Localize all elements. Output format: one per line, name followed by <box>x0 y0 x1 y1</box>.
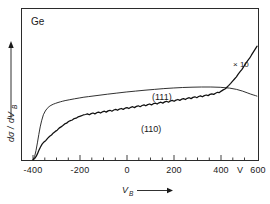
x-tick-label-1: -200 <box>71 165 90 175</box>
x-axis-unit-marker: V <box>237 165 243 175</box>
y-axis-label-denominator-subscript: B <box>11 104 18 109</box>
x-axis-label-subscript: B <box>129 190 134 197</box>
curve-label-111: (111) <box>152 92 172 102</box>
x-tick-label-2: 0 <box>124 165 129 175</box>
y-axis-label-numerator: dσ <box>6 131 16 142</box>
x-axis-label: V B <box>122 185 173 197</box>
material-label: Ge <box>31 16 45 27</box>
x-axis-arrow-icon <box>167 188 173 193</box>
x-tick-label-4: 400 <box>213 165 229 175</box>
multiplier-note: × 10 <box>233 60 249 69</box>
x-tick-label-5: 600 <box>250 165 266 175</box>
x-tick-label-0: -400 <box>24 165 43 175</box>
y-axis-label-denominator: dV <box>6 111 16 123</box>
x-axis-ticks <box>33 155 245 161</box>
y-axis-label: dσ / dV B <box>6 41 18 142</box>
curve-label-110: (110) <box>141 124 161 134</box>
y-axis-label-divider: / <box>6 125 16 130</box>
plot-frame <box>22 9 259 161</box>
x-axis-label-symbol: V <box>122 185 129 195</box>
figure-root: -400 -200 0 200 400 V 600 V B dσ / dV B … <box>0 0 270 204</box>
y-axis-arrow-icon <box>8 41 13 48</box>
x-tick-label-3: 200 <box>166 165 182 175</box>
curve-110 <box>33 46 257 160</box>
